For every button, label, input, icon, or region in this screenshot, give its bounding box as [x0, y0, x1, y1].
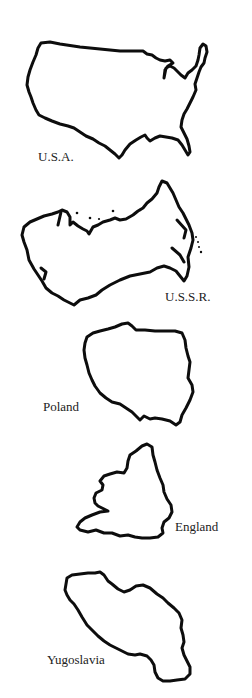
ussr-outline — [22, 181, 202, 305]
ussr-label: U.S.S.R. — [165, 290, 211, 303]
poland-outline — [84, 323, 193, 425]
england-label: England — [175, 520, 218, 533]
england-outline — [77, 444, 172, 538]
usa-label: U.S.A. — [38, 150, 74, 163]
usa-outline — [27, 42, 207, 158]
country-outlines-figure: U.S.A. U.S.S.R. Poland England Yugoslavi… — [0, 0, 252, 698]
yugoslavia-label: Yugoslavia — [47, 653, 105, 666]
poland-label: Poland — [43, 400, 79, 413]
